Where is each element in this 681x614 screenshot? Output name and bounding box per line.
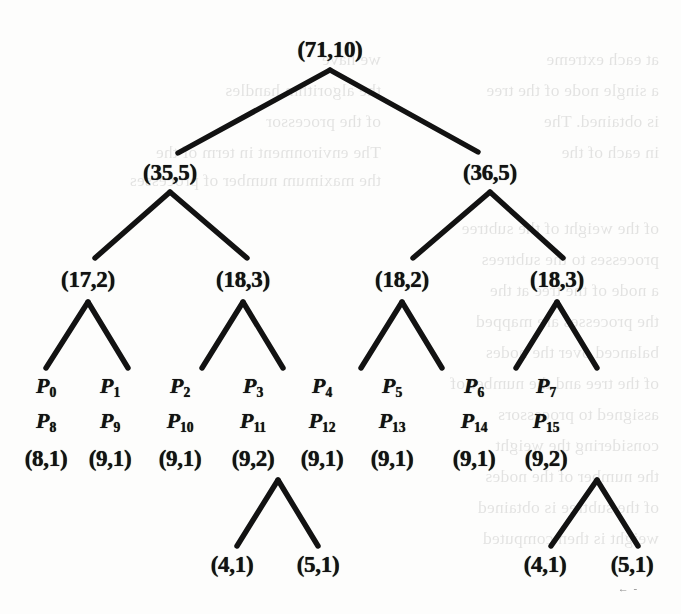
leaf-name-bottom-3: P11 bbox=[240, 408, 266, 436]
tree-edge bbox=[361, 302, 402, 368]
bottom-node-label-2: (4,1) bbox=[524, 552, 567, 578]
tree-edge bbox=[237, 480, 278, 546]
leaf-name-bottom-0: P8 bbox=[36, 408, 56, 436]
tree-edge-pair bbox=[237, 480, 318, 546]
tree-edge bbox=[243, 302, 283, 368]
leaf-name-bottom-4: P12 bbox=[309, 408, 336, 436]
figure-page: at each extremea single node of the tree… bbox=[0, 0, 681, 614]
tree-edge bbox=[278, 480, 318, 546]
tree-node-label-root: (71,10) bbox=[298, 37, 363, 63]
leaf-name-top-6: P6 bbox=[464, 373, 484, 401]
bottom-node-label-1: (5,1) bbox=[297, 552, 340, 578]
tree-edge bbox=[88, 302, 128, 368]
tree-edge-pair bbox=[202, 302, 283, 368]
tree-edge-pair bbox=[95, 192, 247, 258]
leaf-weight-3: (9,2) bbox=[232, 446, 275, 472]
leaf-name-top-1: P1 bbox=[100, 373, 120, 401]
leaf-weight-1: (9,1) bbox=[89, 446, 132, 472]
leaf-name-bottom-7: P15 bbox=[533, 408, 560, 436]
tree-edge bbox=[516, 302, 557, 368]
scan-smudge-mark: ← - bbox=[618, 582, 638, 594]
tree-edge bbox=[202, 302, 243, 368]
tree-edge bbox=[490, 192, 563, 258]
tree-edge bbox=[46, 302, 88, 368]
tree-edge bbox=[557, 302, 597, 368]
tree-edge bbox=[178, 70, 330, 153]
leaf-name-top-2: P2 bbox=[170, 373, 190, 401]
leaf-name-top-5: P5 bbox=[382, 373, 402, 401]
tree-node-label-n-ll: (17,2) bbox=[61, 267, 115, 293]
tree-edge bbox=[413, 192, 490, 258]
leaf-name-bottom-2: P10 bbox=[167, 408, 194, 436]
leaf-weight-2: (9,1) bbox=[159, 446, 202, 472]
bottom-node-label-3: (5,1) bbox=[611, 552, 654, 578]
leaf-name-bottom-1: P9 bbox=[100, 408, 120, 436]
tree-edge bbox=[402, 302, 442, 368]
tree-node-label-n-r: (36,5) bbox=[463, 160, 517, 186]
tree-node-label-n-lr: (18,3) bbox=[216, 267, 270, 293]
tree-node-label-n-rr: (18,3) bbox=[530, 267, 584, 293]
leaf-name-bottom-5: P13 bbox=[379, 408, 406, 436]
tree-edge-pair bbox=[361, 302, 442, 368]
tree-node-label-n-rl: (18,2) bbox=[375, 267, 429, 293]
leaf-weight-6: (9,1) bbox=[453, 446, 496, 472]
leaf-name-top-4: P4 bbox=[312, 373, 332, 401]
tree-edge bbox=[170, 192, 247, 258]
tree-edge-pair bbox=[551, 480, 638, 546]
leaf-weight-7: (9,2) bbox=[525, 446, 568, 472]
tree-edge-pair bbox=[413, 192, 563, 258]
tree-node-label-n-l: (35,5) bbox=[143, 160, 197, 186]
leaf-name-top-7: P7 bbox=[536, 373, 556, 401]
leaf-name-top-0: P0 bbox=[36, 373, 56, 401]
leaf-weight-0: (8,1) bbox=[25, 446, 68, 472]
tree-edge-pair bbox=[516, 302, 597, 368]
tree-edge bbox=[330, 70, 478, 152]
tree-edge-pair bbox=[46, 302, 128, 368]
leaf-name-top-3: P3 bbox=[243, 373, 263, 401]
bottom-node-label-0: (4,1) bbox=[211, 552, 254, 578]
tree-edges bbox=[0, 0, 681, 614]
leaf-weight-4: (9,1) bbox=[301, 446, 344, 472]
tree-edge bbox=[597, 480, 638, 546]
leaf-weight-5: (9,1) bbox=[371, 446, 414, 472]
tree-edge bbox=[95, 192, 170, 258]
leaf-name-bottom-6: P14 bbox=[461, 408, 488, 436]
tree-edge bbox=[551, 480, 597, 546]
tree-edge-pair bbox=[178, 70, 478, 153]
